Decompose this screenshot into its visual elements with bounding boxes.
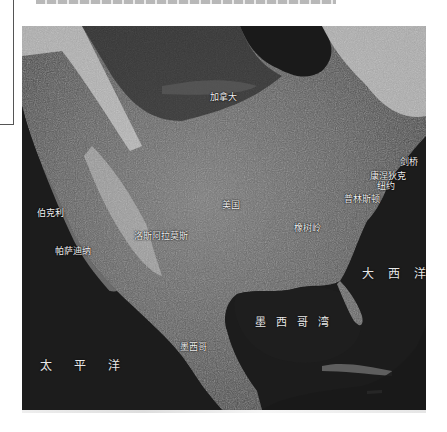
bottom-edge-strip [22,410,426,413]
map-terrain [22,26,426,410]
frame-border-horizontal [0,124,14,125]
label-mexico: 墨西哥 [180,342,207,352]
label-los-alamos: 洛斯阿拉莫斯 [134,231,188,241]
label-pacific-ocean: 太平洋 [40,356,142,373]
label-gulf-of-mexico: 墨西哥湾 [255,313,339,329]
label-cambridge: 剑桥 [400,157,418,167]
label-new-york: 纽约 [377,181,395,191]
label-connecticut: 康涅狄克 [370,171,406,181]
label-canada: 加拿大 [210,92,237,102]
label-oak-ridge: 橡树岭 [294,223,321,233]
label-usa: 美国 [222,200,240,210]
label-princeton: 普林斯顿 [344,194,380,204]
label-pasadena: 帕萨迪纳 [55,246,91,256]
satellite-map: 加拿大 剑桥 康涅狄克 纽约 普林斯顿 美国 伯克利 洛斯阿拉莫斯 橡树岭 帕萨… [22,26,426,410]
label-atlantic-ocean: 大西洋 [362,264,426,281]
cutoff-caption-text [36,0,336,4]
label-berkeley: 伯克利 [37,208,64,218]
frame-border-vertical [13,0,14,124]
